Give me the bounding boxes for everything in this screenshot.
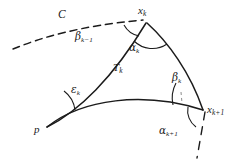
label-vertex-xk: xk [138, 5, 146, 16]
angle-tick-mark [181, 92, 182, 103]
label-angle-epsilon-k: εk [71, 84, 80, 95]
label-curve-c: C [58, 9, 66, 21]
label-region-tk: Tk [113, 62, 123, 73]
label-vertex-p: p [34, 124, 40, 135]
figure-canvas: C xk βk−1 αk Tk εk βk xk+1 αk+1 p [0, 0, 243, 163]
angle-arc-beta-k [172, 83, 176, 105]
label-angle-alpha-k-plus-1: αk+1 [159, 125, 178, 136]
label-angle-beta-k: βk [172, 72, 181, 83]
angle-arc-alpha-k-plus-1 [188, 107, 196, 127]
label-angle-beta-k-minus-1: βk−1 [75, 31, 93, 42]
edge-p-to-xkp1 [47, 100, 203, 127]
edge-xk-to-xkp1 [147, 23, 203, 110]
label-vertex-xk-plus-1: xk+1 [207, 104, 224, 115]
diagram-svg [0, 0, 243, 163]
edge-p-to-xk [47, 23, 146, 127]
angle-arc-beta-k-minus-1 [124, 25, 139, 36]
label-angle-alpha-k: αk [129, 42, 139, 53]
dashed-tangent-ray [197, 112, 205, 158]
